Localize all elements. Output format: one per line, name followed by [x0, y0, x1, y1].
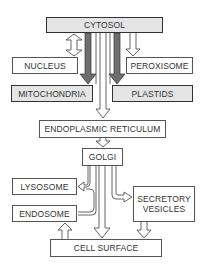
node-cell-surface: CELL SURFACE	[50, 239, 162, 257]
arrow-cytosol-peroxisome	[126, 33, 140, 56]
arrow-er-golgi	[96, 138, 110, 147]
node-peroxisome: PEROXISOME	[126, 57, 193, 74]
node-lysosome: LYSOSOME	[12, 178, 77, 195]
node-cytosol: CYTOSOL	[46, 17, 163, 33]
node-nucleus: NUCLEUS	[12, 57, 78, 74]
node-endosome: ENDOSOME	[12, 205, 77, 222]
arrow-golgi-lysosome	[78, 166, 90, 191]
node-endoplasmic-reticulum: ENDOPLASMIC RETICULUM	[39, 120, 166, 138]
arrow-endosome-lysosome	[78, 189, 94, 212]
node-golgi: GOLGI	[82, 148, 123, 166]
node-mitochondria: MITOCHONDRIA	[11, 85, 93, 102]
arrow-cytosol-nucleus	[66, 34, 82, 56]
arrow-cytosol-plastids	[109, 33, 125, 84]
arrow-secretory-cellsurface	[137, 222, 151, 238]
arrow-cytosol-er	[96, 33, 110, 118]
node-plastids: PLASTIDS	[112, 85, 193, 102]
arrow-cellsurface-endosome	[58, 223, 72, 239]
node-secretory-vesicles: SECRETORY VESICLES	[133, 186, 195, 222]
arrow-golgi-secretory	[112, 166, 132, 202]
arrow-cytosol-mitochondria	[80, 33, 96, 84]
